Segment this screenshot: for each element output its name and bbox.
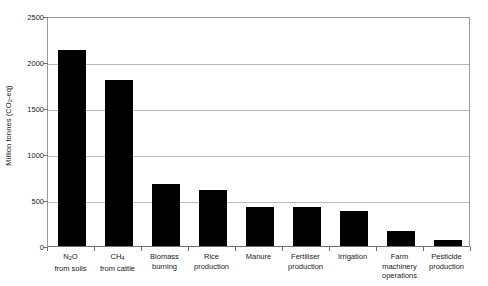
bar [246,207,274,246]
bar [152,184,180,246]
x-axis-tick-label: Manure [235,252,282,262]
bars-group [48,18,469,246]
x-axis-tick-label: Fertiliserproduction [282,252,329,271]
x-axis-tick-label: Irrigation [329,252,376,262]
x-axis-tick-mark [282,247,283,251]
bar [199,190,227,246]
bar-chart-figure: Million tonnes (CO2-eq) 2500200015001000… [0,0,488,286]
y-axis-tick-mark [43,109,48,110]
plot-area [47,17,470,247]
x-axis-tick-label: Riceproduction [188,252,235,271]
x-axis-tick-label: Farmmachineryoperations [376,252,423,281]
bar [387,231,415,246]
x-axis-tick-mark [188,247,189,251]
x-axis-tick-label: Biomassburning [141,252,188,271]
x-axis-tick-mark [423,247,424,251]
y-axis-tick-mark [43,155,48,156]
x-axis-tick-mark [94,247,95,251]
x-axis-tick-mark [329,247,330,251]
x-axis-tick-label: CH4from cattle [94,252,141,273]
x-axis-tick-mark [235,247,236,251]
y-axis-tick-mark [43,17,48,18]
y-axis-tick-label: 2000 [4,59,44,68]
y-axis-tick-mark [43,201,48,202]
x-axis-tick-mark [470,247,471,251]
x-axis-tick-mark [47,247,48,251]
y-axis-tick-label: 500 [4,197,44,206]
y-axis-tick-label: 1000 [4,151,44,160]
bar [58,50,86,246]
y-axis-tick-label: 0 [4,243,44,252]
y-axis-title: Million tonnes (CO2-eq) [0,0,16,250]
x-axis-tick-label: Pesticideproduction [423,252,470,271]
bar [340,211,368,246]
bar [293,207,321,246]
x-axis-tick-mark [376,247,377,251]
y-axis-tick-label: 1500 [4,105,44,114]
bar [434,240,462,246]
bar [105,80,133,246]
y-axis-title-suffix: -eq) [4,85,13,99]
x-axis-tick-label: N2Ofrom soils [47,252,94,273]
y-axis-tick-label: 2500 [4,13,44,22]
y-axis-tick-mark [43,63,48,64]
x-axis-tick-mark [141,247,142,251]
